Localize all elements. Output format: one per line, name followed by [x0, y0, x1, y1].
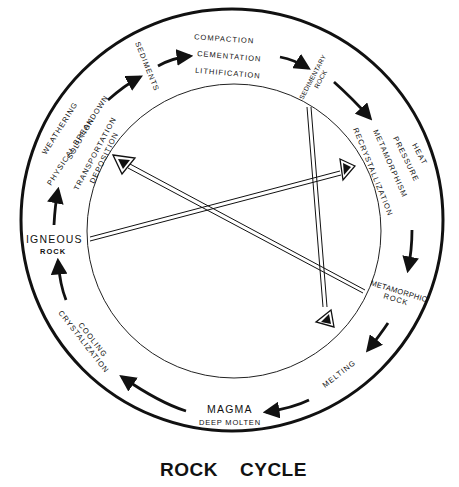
- inner-circle: [87, 84, 381, 378]
- arrow-recrystal-to-metamorphic: [408, 230, 412, 270]
- arrow-sedimentary-to-heat: [334, 82, 370, 118]
- cycle-arrows: [54, 56, 412, 412]
- arrow-sediments-to-compaction: [158, 56, 190, 66]
- label-melting: MELTING: [321, 358, 358, 390]
- svg-text:MAGMA: MAGMA: [207, 403, 253, 415]
- label-cementation: CEMENTATION: [197, 49, 262, 64]
- node-sediments: SEDIMENTS: [133, 40, 161, 92]
- arrow-cementation-to-sedimentary: [280, 57, 308, 68]
- cooling-labels: COOLING CRYSTALIZATION: [56, 309, 110, 375]
- label-compaction: COMPACTION: [194, 32, 255, 45]
- svg-text:RECRYSTALLIZATION: RECRYSTALLIZATION: [351, 126, 395, 217]
- svg-text:ROCK: ROCK: [160, 459, 218, 480]
- arrow-weathering-to-sediments: [108, 77, 140, 100]
- svg-text:CRYSTALIZATION: CRYSTALIZATION: [56, 309, 110, 375]
- node-sedimentary-rock: SEDIMENTARY ROCK: [298, 53, 329, 100]
- svg-text:CYCLE: CYCLE: [240, 459, 307, 480]
- arrow-melting-to-magma: [266, 400, 309, 412]
- node-metamorphic-rock: METAMORPHIC ROCK: [369, 278, 428, 307]
- svg-text:IGNEOUS: IGNEOUS: [26, 233, 83, 245]
- arrow-igneous-to-weathering: [54, 190, 58, 225]
- arrow-cooling-to-igneous: [58, 261, 66, 300]
- node-igneous-rock: IGNEOUS ROCK: [26, 233, 83, 256]
- rock-cycle-diagram: COMPACTION CEMENTATION LITHIFICATION SED…: [0, 0, 459, 487]
- compaction-labels: COMPACTION CEMENTATION LITHIFICATION: [194, 32, 262, 80]
- label-lithification: LITHIFICATION: [195, 66, 261, 81]
- svg-text:ROCK: ROCK: [40, 247, 66, 256]
- svg-text:DEEP MOLTEN: DEEP MOLTEN: [199, 418, 261, 427]
- diagram-title: ROCK CYCLE: [160, 459, 307, 480]
- node-magma: MAGMA DEEP MOLTEN: [199, 403, 261, 427]
- arrow-metamorphic-to-melting: [368, 323, 388, 350]
- metamorphism-labels: HEAT PRESSURE METAMORPHISM RECRYSTALLIZA…: [351, 126, 429, 217]
- shortcut-arrows: [90, 107, 365, 307]
